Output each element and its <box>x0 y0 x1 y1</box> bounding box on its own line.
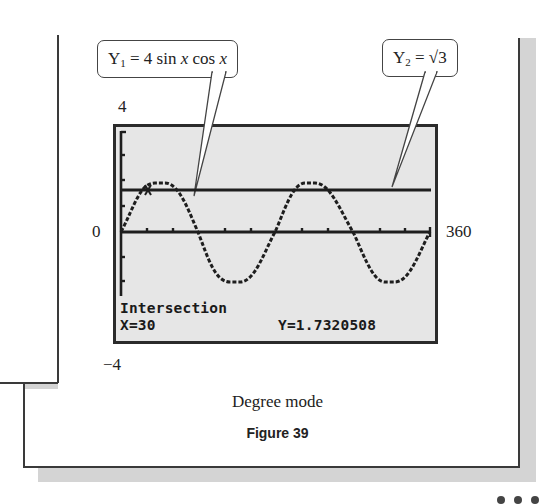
x-readout: X=30 <box>120 317 156 333</box>
figure-title: Figure 39 <box>0 425 555 441</box>
y-axis <box>121 131 126 296</box>
dot-3 <box>531 496 539 504</box>
page-dots <box>497 496 539 504</box>
mode-caption: Degree mode <box>0 392 555 412</box>
intersection-label: Intersection <box>120 300 227 316</box>
y-readout: Y=1.7320508 <box>278 317 376 333</box>
dot-2 <box>514 496 522 504</box>
callout-y1-pointer <box>194 72 226 196</box>
dot-1 <box>497 496 505 504</box>
callout-y2-pointer <box>392 72 437 187</box>
